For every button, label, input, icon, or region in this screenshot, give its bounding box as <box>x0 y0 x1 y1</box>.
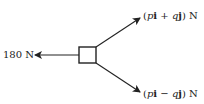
force-label-lower: (pi − qj) N <box>143 89 198 99</box>
force-arrow-lower <box>96 63 140 92</box>
force-label-left: 180 N <box>3 50 34 60</box>
force-arrow-upper <box>96 18 140 47</box>
force-label-upper: (pi + qj) N <box>143 11 198 21</box>
force-magnitude: 180 N <box>3 49 34 60</box>
particle-box <box>79 47 96 63</box>
